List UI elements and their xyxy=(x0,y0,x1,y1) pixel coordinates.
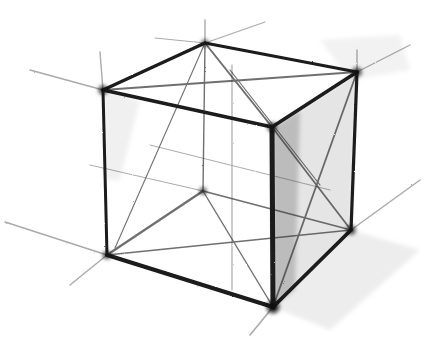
hidden-edge-vertical xyxy=(203,43,205,191)
edge-front-vertical xyxy=(272,127,273,307)
vertex-bottom-right xyxy=(347,226,355,234)
cube-sketch xyxy=(0,0,435,359)
guide-line xyxy=(155,38,205,43)
guide-line xyxy=(100,52,103,90)
vertex-bottom-front xyxy=(267,301,279,313)
guide-line xyxy=(205,22,265,43)
vertex-bottom-left xyxy=(104,252,111,259)
vertex-bottom-back xyxy=(200,188,206,194)
hidden-edge-left xyxy=(107,191,203,255)
vertex-top-back xyxy=(202,40,208,46)
vertex-top-left xyxy=(99,86,107,94)
vertex-top-right xyxy=(353,68,361,76)
guide-line xyxy=(351,180,420,230)
edge-bottom-left xyxy=(107,255,273,307)
guide-line xyxy=(5,222,107,255)
edge-top-back-left xyxy=(103,43,205,90)
guide-line xyxy=(30,70,103,90)
vertex-top-front xyxy=(268,123,276,131)
guide-line xyxy=(70,255,107,285)
left-face-hatch xyxy=(103,90,140,180)
